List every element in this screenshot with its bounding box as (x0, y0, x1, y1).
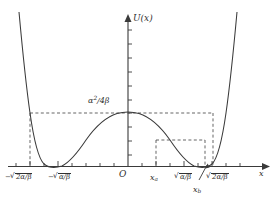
plot-canvas (0, 0, 275, 206)
turning-point-b-subscript: b (198, 188, 202, 194)
left-zero-radicand: 2α/β (15, 173, 33, 181)
construction-lines-group (30, 113, 213, 166)
turning-point-a-label: xa (150, 174, 158, 183)
potential-curve-right-branch (128, 12, 237, 168)
left-min-radicand: α/β (58, 173, 71, 181)
origin-label: O (119, 170, 126, 179)
right-zero-tick-label: 2α/β (207, 173, 229, 181)
left-zero-tick-label: −2α/β (5, 173, 32, 181)
barrier-height-label: α2/4β (88, 96, 110, 105)
potential-curve-left-branch (19, 12, 128, 168)
y-axis-ticks (128, 30, 132, 155)
left-minimum-tick-label: −α/β (48, 173, 71, 181)
x-axis-group (8, 161, 270, 170)
y-axis-label: U(x) (133, 14, 153, 23)
barrier-denominator: 4β (100, 96, 110, 105)
left-min-sqrt: α/β (54, 173, 71, 181)
right-min-sqrt: α/β (175, 173, 192, 181)
turning-point-b-label: xb (193, 186, 201, 195)
x-axis-label: x (259, 170, 264, 178)
right-zero-sqrt: 2α/β (207, 173, 229, 181)
turning-point-a-subscript: a (155, 176, 158, 182)
y-axis-arrowhead (125, 14, 132, 22)
left-zero-sqrt: 2α/β (11, 173, 33, 181)
potential-energy-diagram: U(x) x O α2/4β −2α/β −α/β xa α/β 2α/β xb (0, 0, 275, 206)
y-axis-group (125, 14, 133, 167)
right-zero-radicand: 2α/β (211, 173, 229, 181)
right-minimum-tick-label: α/β (175, 173, 192, 181)
right-min-radicand: α/β (179, 173, 192, 181)
